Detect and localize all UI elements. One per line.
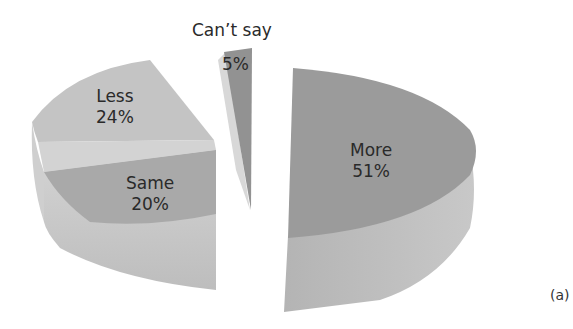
slice-more xyxy=(284,68,476,312)
more-name: More xyxy=(350,140,392,161)
same-name: Same xyxy=(126,173,174,194)
cant-say-value: 5% xyxy=(222,54,249,75)
less-value: 24% xyxy=(96,107,134,128)
slice-label-more: More 51% xyxy=(350,140,392,182)
slice-same xyxy=(44,150,216,290)
slice-label-cant-say: Can’t say xyxy=(192,20,272,41)
cant-say-name: Can’t say xyxy=(192,20,272,41)
pie-chart xyxy=(0,0,573,329)
slice-label-less: Less 24% xyxy=(96,86,134,128)
panel-label: (a) xyxy=(550,287,570,303)
less-name: Less xyxy=(96,86,134,107)
slice-label-same: Same 20% xyxy=(126,173,174,215)
slice-label-cant-say-pct: 5% xyxy=(222,54,249,75)
more-value: 51% xyxy=(350,161,392,182)
same-value: 20% xyxy=(126,194,174,215)
